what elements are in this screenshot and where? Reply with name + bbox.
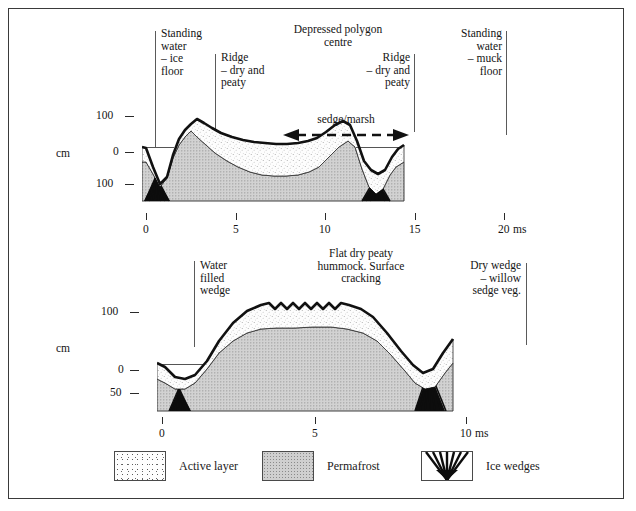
upper-xlabel-20: 20 xyxy=(498,223,510,235)
lower-xaxis-unit: ms xyxy=(475,427,488,439)
upper-ytick-dash-bottom xyxy=(125,184,134,185)
lower-xlabel-5: 5 xyxy=(312,427,318,439)
legend: Active layer Permafrost Ice wedges xyxy=(9,447,625,493)
upper-xlabel-15: 15 xyxy=(409,223,421,235)
upper-ytick-100-bottom: 100 xyxy=(96,177,113,189)
upper-xtick-5 xyxy=(236,213,237,220)
upper-xtick-0 xyxy=(146,213,147,220)
lower-yaxis-label: cm xyxy=(56,342,70,354)
lower-ytick-dash-0 xyxy=(130,370,139,371)
upper-yaxis-label: cm xyxy=(56,147,70,159)
lower-cross-section-drawing xyxy=(157,291,537,421)
annotation-sedge-marsh: sedge/marsh xyxy=(291,113,401,126)
legend-swatch-permafrost xyxy=(262,451,314,481)
lower-xtick-5 xyxy=(315,417,316,424)
legend-swatch-active-layer xyxy=(114,451,166,481)
lower-ytick-100: 100 xyxy=(101,305,118,317)
upper-ytick-dash-0 xyxy=(125,152,134,153)
lower-xlabel-0: 0 xyxy=(159,427,165,439)
upper-xtick-10 xyxy=(325,213,326,220)
annotation-ridge-right: Ridge – dry and peaty xyxy=(334,51,410,89)
ice-wedge-fan-icon xyxy=(422,452,472,480)
lower-xtick-0 xyxy=(162,417,163,424)
upper-xlabel-5: 5 xyxy=(233,223,239,235)
figure-frame: Standing water – ice floor Ridge – dry a… xyxy=(8,8,624,499)
upper-ytick-dash-top xyxy=(125,116,134,117)
lower-ytick-50: 50 xyxy=(110,386,122,398)
upper-xlabel-0: 0 xyxy=(143,223,149,235)
annotation-flat-dry-peaty-hummock: Flat dry peaty hummock. Surface cracking xyxy=(281,247,441,285)
upper-xtick-20 xyxy=(504,213,505,220)
annotation-depressed-polygon-centre: Depressed polygon centre xyxy=(263,23,413,48)
legend-label-active-layer: Active layer xyxy=(179,459,238,474)
upper-xaxis-unit: ms xyxy=(513,223,526,235)
upper-ytick-100-top: 100 xyxy=(96,109,113,121)
annotation-ridge-left: Ridge – dry and peaty xyxy=(221,51,295,89)
lower-ytick-dash-100 xyxy=(130,312,139,313)
lower-ytick-dash-50 xyxy=(130,393,139,394)
upper-xlabel-10: 10 xyxy=(319,223,331,235)
legend-label-ice-wedges: Ice wedges xyxy=(486,459,540,474)
annotation-standing-water-muck-floor: Standing water – muck floor xyxy=(430,27,502,77)
lower-xtick-10 xyxy=(466,417,467,424)
sedge-marsh-arrow xyxy=(281,127,411,143)
lower-cross-section-panel: Water filled wedge Flat dry peaty hummoc… xyxy=(9,245,625,435)
lower-ytick-0: 0 xyxy=(118,363,124,375)
lower-xlabel-10: 10 xyxy=(460,427,472,439)
upper-ytick-0: 0 xyxy=(113,145,119,157)
legend-label-permafrost: Permafrost xyxy=(327,459,380,474)
upper-xtick-15 xyxy=(415,213,416,220)
upper-cross-section-panel: Standing water – ice floor Ridge – dry a… xyxy=(9,9,625,237)
legend-swatch-ice-wedges xyxy=(421,451,473,481)
